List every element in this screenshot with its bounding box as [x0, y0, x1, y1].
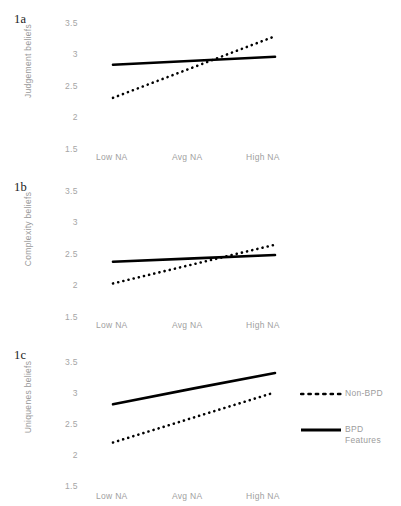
x-tick-1b-1: Avg NA — [172, 320, 202, 330]
x-tick-1a-1: Avg NA — [172, 152, 202, 162]
y-axis-title-1b: Complexity beliefs — [23, 169, 33, 289]
plot-area-1a — [83, 18, 305, 132]
y-tick-1b-0: 3.5 — [48, 186, 78, 196]
y-tick-1a-1: 3 — [48, 49, 78, 59]
legend-label-non-bpd: Non-BPD — [342, 388, 383, 399]
figure-1-panels: 1a Judgement beliefs 3.5 3 2.5 2 1.5 Low… — [0, 0, 401, 506]
y-tick-1c-2: 2.5 — [48, 419, 78, 429]
y-axis-title-1a: Judgement beliefs — [23, 1, 33, 121]
plot-lines-1c — [83, 357, 305, 471]
plot-lines-1b — [83, 186, 305, 300]
legend-label-bpd-features: BPD Features — [342, 424, 400, 446]
y-tick-1b-3: 2 — [48, 280, 78, 290]
plot-area-1b — [83, 186, 305, 300]
x-tick-1c-0: Low NA — [96, 491, 128, 501]
y-tick-1a-4: 1.5 — [48, 144, 78, 154]
series-line-non-bpd — [113, 245, 275, 284]
plot-lines-1a — [83, 18, 305, 132]
series-line-bpd-features — [113, 255, 275, 262]
series-line-non-bpd — [113, 36, 275, 98]
legend-item-bpd-features: BPD Features — [300, 424, 400, 446]
panel-1b: 1b Complexity beliefs 3.5 3 2.5 2 1.5 Lo… — [0, 168, 401, 336]
x-tick-1a-2: High NA — [246, 152, 280, 162]
legend-swatch-solid-icon — [300, 424, 342, 436]
y-tick-1c-4: 1.5 — [48, 481, 78, 491]
y-tick-1a-2: 2.5 — [48, 81, 78, 91]
series-line-bpd-features — [113, 57, 275, 65]
y-tick-1b-2: 2.5 — [48, 249, 78, 259]
x-tick-1b-2: High NA — [246, 320, 280, 330]
y-tick-1c-3: 2 — [48, 450, 78, 460]
y-axis-title-1c: Uniquenes beliefs — [23, 337, 33, 457]
legend-item-non-bpd: Non-BPD — [300, 388, 383, 400]
legend-swatch-dotted-icon — [300, 388, 342, 400]
legend: Non-BPD BPD Features — [300, 376, 400, 461]
y-tick-1b-1: 3 — [48, 217, 78, 227]
y-tick-1b-4: 1.5 — [48, 312, 78, 322]
plot-area-1c — [83, 357, 305, 471]
x-tick-1c-1: Avg NA — [172, 491, 202, 501]
y-tick-1a-0: 3.5 — [48, 18, 78, 28]
y-tick-1c-0: 3.5 — [48, 357, 78, 367]
x-tick-1b-0: Low NA — [96, 320, 128, 330]
panel-1a: 1a Judgement beliefs 3.5 3 2.5 2 1.5 Low… — [0, 0, 401, 168]
x-tick-1a-0: Low NA — [96, 152, 128, 162]
y-tick-1c-1: 3 — [48, 388, 78, 398]
x-tick-1c-2: High NA — [246, 491, 280, 501]
y-tick-1a-3: 2 — [48, 112, 78, 122]
